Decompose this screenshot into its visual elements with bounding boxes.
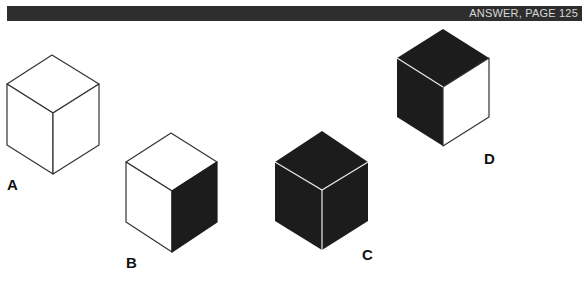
cube-b-label: B	[126, 254, 137, 271]
cube-d-label: D	[484, 150, 495, 167]
cube-c	[275, 131, 368, 250]
cube-a	[7, 55, 99, 174]
cube-b	[126, 133, 217, 252]
cube-a-label: A	[7, 176, 18, 193]
cube-d	[397, 29, 489, 146]
cube-c-label: C	[362, 246, 373, 263]
cubes-figure	[0, 0, 588, 282]
